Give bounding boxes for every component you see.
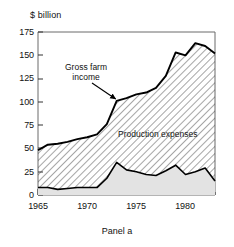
annotation-arrow-gross [92,83,116,99]
chart-canvas [0,0,234,247]
series-layer [38,43,215,195]
area-production-expenses [38,43,215,189]
